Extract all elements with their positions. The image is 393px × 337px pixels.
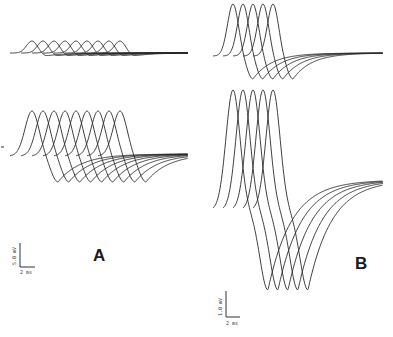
waveform-figure: 5.0 mV 2 ms 1.0 mV 2 ms (0, 0, 393, 337)
scale-bar-b: 1.0 mV 2 ms (217, 291, 240, 326)
scale-a-vertical: 5.0 mV (11, 247, 17, 265)
scale-b-horizontal: 2 ms (226, 320, 238, 326)
panel-label-a: A (93, 246, 105, 266)
panel-b-top-traces (213, 4, 383, 79)
scale-bar-a: 5.0 mV 2 ms (11, 243, 35, 275)
panel-label-b: B (355, 254, 367, 274)
waveform-trace (76, 111, 188, 182)
panel-a-bottom-traces (10, 111, 188, 182)
waveform-trace (233, 4, 383, 79)
waveform-trace (253, 4, 383, 79)
scale-a-horizontal: 2 ms (20, 269, 32, 275)
waveform-trace (213, 4, 382, 79)
waveform-trace (10, 111, 188, 182)
waveform-trace (65, 111, 188, 182)
scale-b-vertical: 1.0 mV (217, 298, 223, 316)
waveform-trace (54, 111, 188, 182)
panel-a-top-traces (10, 41, 188, 55)
waveform-trace (98, 111, 188, 182)
waveform-trace (43, 111, 188, 182)
